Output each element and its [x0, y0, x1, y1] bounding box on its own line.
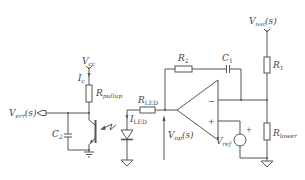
verr-output: Verr(s): [9, 108, 90, 119]
r2-label: R2: [177, 53, 189, 64]
vref-label: Vref: [216, 136, 233, 148]
vop-label: Vop(s): [168, 130, 194, 142]
voltage-source-icon: [234, 134, 246, 146]
resistor-icon: [264, 57, 270, 73]
vcc-supply: Vcc Ic: [77, 56, 96, 85]
iled-label: ILED: [129, 114, 147, 125]
vtest-label: Vtest(s): [249, 16, 277, 27]
current-arrow-icon: [88, 73, 91, 77]
ic-label: Ic: [77, 73, 86, 84]
r1-label: R1: [272, 60, 284, 71]
resistor-icon: [86, 85, 92, 102]
resistor-icon: [140, 107, 155, 113]
voltage-arrow-icon: [163, 115, 166, 121]
rled-label: RLED: [137, 95, 158, 106]
rlower-resistor: Rlower: [264, 123, 298, 158]
led-branch: ILED: [121, 110, 147, 166]
light-coupling-arrow: [100, 124, 116, 130]
ground-icon: [84, 152, 94, 157]
vop-indicator: Vop(s): [163, 115, 195, 160]
opamp-plus-label: +: [208, 117, 215, 126]
junction-dot: [88, 149, 90, 151]
vcc-label: Vcc: [82, 56, 96, 67]
ground-icon: [261, 161, 273, 167]
junction-dot: [266, 99, 268, 101]
output-port-icon: [37, 111, 46, 116]
rpullup-resistor: Rpullup: [86, 85, 122, 113]
c2-label: C2: [52, 129, 63, 140]
r1-resistor: R1: [264, 57, 284, 123]
vref-plus-label: +: [246, 126, 252, 134]
rled-resistor: RLED: [127, 95, 178, 113]
led-icon: [121, 130, 133, 139]
ground-icon: [121, 160, 133, 166]
rpullup-label: Rpullup: [95, 88, 122, 100]
arrowhead-icon: [100, 126, 106, 131]
rlower-label: Rlower: [272, 128, 298, 139]
verr-label: Verr(s): [9, 108, 37, 119]
r2-resistor-icon: [175, 66, 192, 72]
c2-capacitor: C2: [52, 113, 89, 150]
optocoupler-feedback-circuit: Vcc Ic Rpullup Verr(s) C2: [0, 0, 305, 180]
c1-label: C1: [222, 53, 233, 64]
current-arrow-icon: [126, 115, 129, 119]
resistor-icon: [264, 123, 270, 140]
opamp-minus-label: −: [208, 97, 215, 106]
light-arrow-icon: [104, 124, 116, 130]
vtest-input: Vtest(s): [249, 16, 277, 57]
